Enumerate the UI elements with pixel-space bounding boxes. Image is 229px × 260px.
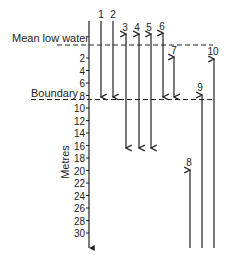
svg-text:7: 7	[171, 45, 177, 56]
svg-text:5: 5	[146, 22, 152, 33]
svg-text:4: 4	[134, 22, 140, 33]
mean-low-water-label: Mean low water	[12, 32, 89, 44]
svg-text:8: 8	[79, 91, 85, 102]
svg-text:16: 16	[74, 141, 86, 152]
svg-text:3: 3	[122, 22, 128, 33]
svg-text:30: 30	[74, 228, 86, 239]
svg-text:26: 26	[74, 203, 86, 214]
svg-text:28: 28	[74, 216, 86, 227]
svg-text:14: 14	[74, 128, 86, 139]
svg-text:6: 6	[159, 21, 165, 32]
axis-ticks: 2 4 6 8 10 12 14 16 18 20 22 24 26 28 30	[74, 53, 89, 239]
svg-text:12: 12	[74, 116, 86, 127]
arrow-5: 5	[146, 22, 152, 148]
boundary-label: Boundary	[31, 87, 79, 99]
depth-diagram: Mean low water Boundary Metres 2 4 6 8 1…	[0, 0, 229, 260]
axis-label: Metres	[59, 145, 71, 179]
svg-text:2: 2	[110, 9, 116, 20]
svg-text:1: 1	[98, 9, 104, 20]
arrow-10: 10	[207, 46, 219, 248]
arrow-1: 1	[98, 9, 104, 97]
arrow-7: 7	[171, 45, 177, 97]
svg-text:4: 4	[79, 66, 85, 77]
svg-text:8: 8	[186, 157, 192, 168]
svg-text:18: 18	[74, 153, 86, 164]
svg-text:10: 10	[74, 103, 86, 114]
svg-text:20: 20	[74, 166, 86, 177]
svg-text:9: 9	[197, 82, 203, 93]
arrow-9: 9	[197, 82, 203, 248]
arrow-3: 3	[122, 22, 128, 148]
arrow-8: 8	[186, 157, 192, 248]
svg-text:24: 24	[74, 191, 86, 202]
arrow-6: 6	[159, 21, 165, 97]
svg-text:6: 6	[79, 78, 85, 89]
svg-text:2: 2	[79, 53, 85, 64]
arrow-2: 2	[110, 9, 116, 97]
svg-text:10: 10	[207, 46, 219, 57]
svg-text:22: 22	[74, 178, 86, 189]
arrow-4: 4	[134, 22, 140, 148]
